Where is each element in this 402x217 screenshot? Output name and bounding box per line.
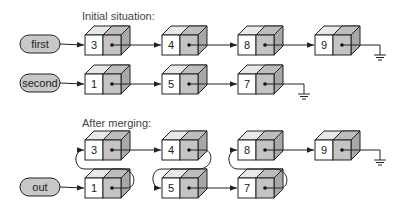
node-value: 4 — [168, 144, 174, 156]
node-out-1: 3 — [85, 131, 130, 160]
node-first-1: 4 — [162, 26, 207, 55]
node-out-3: 5 — [162, 169, 207, 198]
node-value: 9 — [321, 144, 327, 156]
svg-text:first: first — [31, 38, 49, 50]
node-value: 3 — [91, 39, 97, 51]
svg-text:out: out — [32, 181, 47, 193]
node-out-2: 4 — [162, 131, 207, 160]
node-value: 8 — [244, 39, 250, 51]
linked-list-diagram: first3489second1571345789out — [0, 0, 402, 217]
node-first-3: 9 — [315, 26, 360, 55]
null-ground-icon — [374, 45, 386, 60]
node-value: 1 — [91, 182, 97, 194]
node-second-1: 5 — [162, 65, 207, 94]
node-out-0: 1 — [85, 169, 130, 198]
node-first-2: 8 — [238, 26, 283, 55]
node-first-0: 3 — [85, 26, 130, 55]
svg-text:second: second — [22, 77, 57, 89]
node-value: 5 — [168, 78, 174, 90]
node-value: 5 — [168, 182, 174, 194]
node-value: 7 — [244, 78, 250, 90]
node-second-0: 1 — [85, 65, 130, 94]
node-value: 9 — [321, 39, 327, 51]
list-head-second: second — [20, 74, 60, 92]
node-second-2: 7 — [238, 65, 283, 94]
node-value: 8 — [244, 144, 250, 156]
list-head-out: out — [20, 178, 60, 196]
list-head-first: first — [20, 35, 60, 53]
node-value: 3 — [91, 144, 97, 156]
node-out-5: 8 — [238, 131, 283, 160]
node-value: 4 — [168, 39, 174, 51]
node-value: 1 — [91, 78, 97, 90]
null-ground-icon — [298, 84, 310, 99]
node-value: 7 — [244, 182, 250, 194]
null-ground-icon — [374, 150, 386, 165]
node-out-4: 7 — [238, 169, 283, 198]
node-out-6: 9 — [315, 131, 360, 160]
